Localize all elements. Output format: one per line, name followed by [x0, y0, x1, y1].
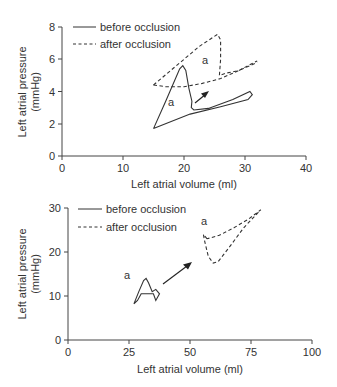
svg-text:6: 6	[49, 53, 55, 65]
svg-text:Left atrial pressure: Left atrial pressure	[16, 228, 28, 319]
svg-text:before occlusion: before occlusion	[106, 203, 186, 215]
svg-text:2: 2	[49, 118, 55, 130]
chart-top: 8 6 4 2 0 0 10 20 30 40 Left atrial volu…	[0, 0, 337, 195]
svg-text:(mmHg): (mmHg)	[29, 254, 41, 294]
x-tick-labels-top: 0 10 20 30 40	[59, 162, 312, 174]
svg-text:(mmHg): (mmHg)	[29, 72, 41, 112]
svg-text:4: 4	[49, 86, 55, 98]
annotation-a-solid-top: a	[168, 96, 175, 108]
annotation-a-solid-bottom: a	[124, 269, 131, 281]
annotation-a-dashed-top: a	[202, 54, 209, 66]
x-tick-labels-bottom: 0 25 50 75 100	[65, 346, 321, 358]
x-axis-label-bottom: Left atrial volume (ml)	[137, 363, 243, 375]
svg-text:10: 10	[117, 162, 129, 174]
svg-text:Left atrial pressure: Left atrial pressure	[16, 46, 28, 137]
series-after-occlusion-bottom	[203, 210, 260, 263]
svg-text:50: 50	[184, 346, 196, 358]
legend-bottom: before occlusion after occlusion	[78, 203, 186, 233]
svg-text:100: 100	[303, 346, 321, 358]
svg-text:30: 30	[49, 202, 61, 214]
x-axis-label-top: Left atrial volume (ml)	[131, 178, 237, 190]
chart-bottom: 30 20 10 0 0 25 50 75 100 Left atrial vo…	[0, 195, 337, 387]
svg-text:before occlusion: before occlusion	[100, 21, 180, 33]
svg-text:0: 0	[55, 334, 61, 346]
arrow-icon	[163, 262, 192, 284]
y-axis-label-bottom: Left atrial pressure (mmHg)	[16, 228, 41, 319]
x-axis-bottom	[68, 340, 312, 344]
annotation-a-dashed-bottom: a	[201, 215, 208, 227]
svg-text:10: 10	[49, 290, 61, 302]
series-after-occlusion-top-lower	[154, 63, 258, 87]
arrow-icon	[195, 91, 209, 103]
series-before-occlusion-bottom	[134, 278, 160, 304]
svg-text:after occlusion: after occlusion	[106, 221, 177, 233]
y-axis-label-top: Left atrial pressure (mmHg)	[16, 46, 41, 137]
svg-text:0: 0	[65, 346, 71, 358]
svg-text:0: 0	[49, 150, 55, 162]
y-tick-labels-top: 8 6 4 2 0	[49, 21, 55, 162]
y-tick-labels-bottom: 30 20 10 0	[49, 202, 61, 346]
svg-text:30: 30	[239, 162, 251, 174]
y-axis-bottom	[64, 208, 68, 340]
y-axis-top	[58, 27, 62, 156]
svg-text:75: 75	[245, 346, 257, 358]
svg-text:8: 8	[49, 21, 55, 33]
svg-text:25: 25	[123, 346, 135, 358]
svg-text:20: 20	[49, 246, 61, 258]
svg-text:40: 40	[300, 162, 312, 174]
svg-text:after occlusion: after occlusion	[100, 38, 171, 50]
x-axis-top	[62, 156, 306, 160]
svg-text:20: 20	[178, 162, 190, 174]
legend-top: before occlusion after occlusion	[73, 21, 180, 50]
svg-text:0: 0	[59, 162, 65, 174]
